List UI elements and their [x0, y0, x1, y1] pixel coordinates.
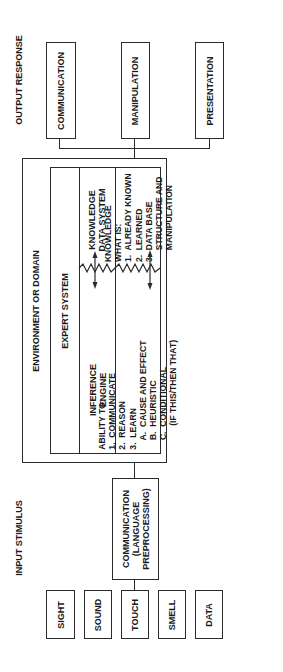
- input-box-touch: TOUCH: [121, 590, 149, 639]
- expert-system-diagram: OUTPUT RESPONSE COMMUNICATION MANIPULATI…: [0, 0, 283, 672]
- input-box-smell: SMELL: [158, 590, 186, 639]
- bidirectional-arrow-icon: [93, 251, 98, 289]
- input-box-sound: SOUND: [84, 590, 112, 639]
- input-box-sight: SIGHT: [46, 590, 75, 639]
- language-preprocessing-box: COMMUNICATION (LANGUAGE PREPROCESSING): [112, 478, 159, 580]
- input-trunk: [134, 462, 135, 479]
- input-box-data: DATA: [195, 590, 223, 639]
- input-stimulus-title: INPUT STIMULUS: [8, 490, 30, 585]
